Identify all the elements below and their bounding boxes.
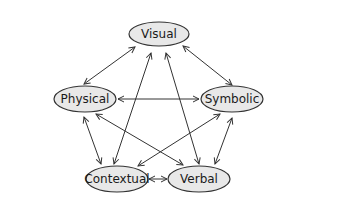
edge-symbolic-contextual [138,114,220,166]
edge-visual-verbal [166,53,199,164]
edge-physical-contextual [84,117,101,164]
node-visual: Visual [129,22,189,46]
node-verbal-label: Verbal [180,172,218,186]
edges-layer [84,46,232,179]
edge-visual-symbolic [183,46,232,85]
node-symbolic: Symbolic [201,86,263,112]
node-verbal: Verbal [168,166,230,192]
node-contextual: Contextual [84,166,149,192]
edge-symbolic-verbal [215,118,232,164]
node-contextual-label: Contextual [84,172,149,186]
edge-visual-physical [84,47,135,84]
nodes-layer: VisualPhysicalSymbolicContextualVerbal [54,22,263,192]
node-physical: Physical [54,86,116,112]
edge-visual-contextual [114,53,151,164]
relationship-diagram: VisualPhysicalSymbolicContextualVerbal [0,0,354,209]
node-symbolic-label: Symbolic [205,92,260,106]
node-physical-label: Physical [61,92,110,106]
node-visual-label: Visual [141,27,177,41]
edge-physical-verbal [96,114,183,165]
